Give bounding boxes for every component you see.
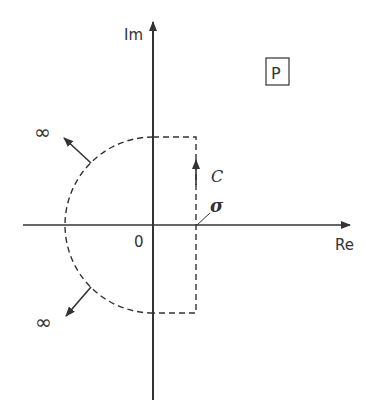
origin-label: 0 <box>134 233 144 251</box>
infinity-label-bottom: ∞ <box>35 310 52 334</box>
sigma-label: σ <box>210 195 224 216</box>
real-axis-label: Re <box>335 236 354 254</box>
contour-label: C <box>211 167 223 186</box>
infinity-arrow-bottom <box>66 287 91 316</box>
nyquist-contour-diagram: Im Re 0 P C σ ∞ ∞ <box>0 0 366 413</box>
infinity-arrow-top <box>64 138 91 163</box>
infinity-label-top: ∞ <box>34 120 51 144</box>
plane-label: P <box>271 64 281 83</box>
imaginary-axis-label: Im <box>124 26 143 44</box>
sigma-leader-line <box>197 213 210 225</box>
